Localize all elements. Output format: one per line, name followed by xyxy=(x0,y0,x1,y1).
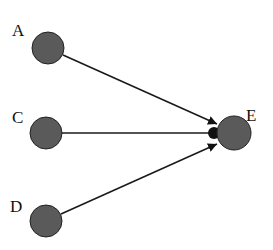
node-a xyxy=(32,32,64,64)
node-d xyxy=(30,205,62,237)
edge-d-e xyxy=(61,144,217,214)
node-c xyxy=(30,117,62,149)
graph-diagram: A C D E xyxy=(0,0,273,250)
label-c: C xyxy=(12,108,23,127)
label-a: A xyxy=(12,21,25,40)
edge-a-e xyxy=(63,55,217,124)
label-e: E xyxy=(246,106,256,125)
label-d: D xyxy=(10,197,22,216)
